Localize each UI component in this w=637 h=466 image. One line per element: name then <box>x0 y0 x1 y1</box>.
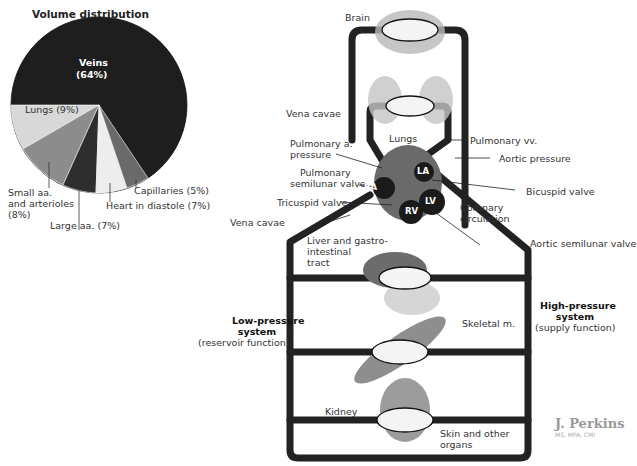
pie-large-aa-label: Large aa. (7%) <box>50 220 120 231</box>
liver-label-1: Liver and gastro- <box>307 235 388 246</box>
lungs-label: Lungs <box>389 133 417 144</box>
pie-title: Volume distribution <box>32 8 149 20</box>
vena-cavae-bottom-label: Vena cavae <box>230 217 285 228</box>
low-pressure-system: system <box>232 326 282 337</box>
artist-credentials: MS, MFA, CMI <box>555 431 595 438</box>
vena-cavae-top-label: Vena cavae <box>286 108 341 119</box>
rv-label: RV <box>405 206 418 217</box>
high-pressure-title: High-pressure <box>540 300 610 311</box>
la-label: LA <box>417 166 429 177</box>
liver-label-2: intestinal <box>307 246 351 257</box>
low-pressure-title: Low-pressure <box>232 315 282 326</box>
pie-small-aa-label-3: (8%) <box>8 209 30 220</box>
pulm-semilunar-label-2: semilunar valve <box>290 178 366 189</box>
skin-label-2: organs <box>440 439 472 450</box>
high-pressure-function: (supply function) <box>535 322 615 333</box>
pie-veins-label: Veins <box>79 57 108 68</box>
pulmonary-a-label-1: Pulmonary a. <box>290 138 353 149</box>
pie-small-aa-label-1: Small aa. <box>8 187 52 198</box>
lv-label: LV <box>425 196 436 207</box>
kidney-label: Kidney <box>325 406 357 417</box>
tricuspid-label: Tricuspid valve <box>277 197 347 208</box>
pie-veins-pct: (64%) <box>76 69 107 80</box>
pulmonary-a-label-2: pressure <box>290 149 331 160</box>
skin-label-1: Skin and other <box>440 428 509 439</box>
pie-heart-label: Heart in diastole (7%) <box>106 200 210 211</box>
pie-small-aa-label-2: and arterioles <box>8 198 74 209</box>
brain-label: Brain <box>345 12 370 23</box>
low-pressure-function: (reservoir function) <box>198 337 288 348</box>
artist-signature: J. Perkins <box>555 416 624 431</box>
bicuspid-label: Bicuspid valve <box>526 186 595 197</box>
pulm-semilunar-label-1: Pulmonary <box>300 167 351 178</box>
coronary-label-1: Coronary <box>460 202 503 213</box>
skeletal-label: Skeletal m. <box>462 318 515 329</box>
organ-illustrations <box>347 10 453 442</box>
aortic-pressure-label: Aortic pressure <box>499 153 571 164</box>
pie-lungs-label: Lungs (9%) <box>25 104 79 115</box>
ra-label: RA <box>364 182 377 193</box>
aortic-semilunar-label: Aortic semilunar valve <box>530 238 636 249</box>
pie-capillaries-label: Capillaries (5%) <box>134 185 209 196</box>
liver-label-3: tract <box>307 257 329 268</box>
high-pressure-system: system <box>540 311 610 322</box>
coronary-label-2: circulation <box>460 213 509 224</box>
pulmonary-vv-label: Pulmonary vv. <box>470 135 537 146</box>
